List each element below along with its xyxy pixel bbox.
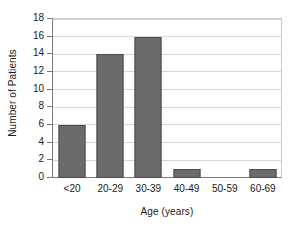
- y-tick-label-6: 6: [4, 119, 44, 129]
- y-tick-18: [47, 18, 52, 19]
- x-axis-title: Age (years): [52, 206, 282, 218]
- bar-chart: Number of Patients 18 16 14 12 10 8 6 4 …: [0, 0, 304, 228]
- bar-30-39[interactable]: [135, 37, 162, 178]
- y-tick-label-8: 8: [4, 101, 44, 111]
- bar-lt20[interactable]: [59, 125, 86, 178]
- y-tick-6: [47, 124, 52, 125]
- x-tick-label-30-39: 30-39: [129, 183, 167, 194]
- y-tick-12: [47, 71, 52, 72]
- bar-20-29[interactable]: [97, 54, 124, 178]
- x-tick-label-lt20: <20: [53, 183, 91, 194]
- y-tick-label-18: 18: [4, 13, 44, 23]
- x-tick-label-20-29: 20-29: [91, 183, 129, 194]
- y-tick-label-4: 4: [4, 137, 44, 147]
- x-tick-label-60-69: 60-69: [244, 183, 282, 194]
- y-tick-0: [47, 177, 52, 178]
- bar-slot-3: [168, 19, 206, 178]
- y-tick-label-12: 12: [4, 66, 44, 76]
- y-tick-16: [47, 36, 52, 37]
- y-tick-label-2: 2: [4, 154, 44, 164]
- bar-slot-1: [91, 19, 129, 178]
- y-tick-4: [47, 142, 52, 143]
- y-tick-8: [47, 106, 52, 107]
- bar-40-49[interactable]: [173, 169, 200, 178]
- bar-slot-5: [244, 19, 282, 178]
- x-tick-label-50-59: 50-59: [206, 183, 244, 194]
- y-tick-14: [47, 53, 52, 54]
- y-tick-label-16: 16: [4, 31, 44, 41]
- bar-slot-4: [206, 19, 244, 178]
- bars-layer: [53, 19, 282, 178]
- y-tick-label-10: 10: [4, 84, 44, 94]
- y-tick-label-0: 0: [4, 172, 44, 182]
- y-tick-2: [47, 159, 52, 160]
- y-tick-label-14: 14: [4, 48, 44, 58]
- y-tick-10: [47, 89, 52, 90]
- bar-60-69[interactable]: [249, 169, 276, 178]
- bar-slot-2: [129, 19, 167, 178]
- x-tick-label-40-49: 40-49: [168, 183, 206, 194]
- bar-slot-0: [53, 19, 91, 178]
